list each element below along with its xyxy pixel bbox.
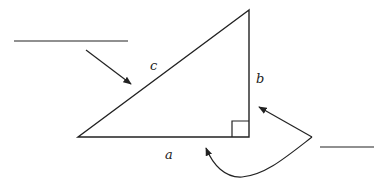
diagram-svg: c b a — [0, 0, 384, 188]
label-c-hypotenuse: c — [150, 58, 158, 73]
arrow-to-hypotenuse — [86, 50, 131, 84]
label-a-leg: a — [165, 147, 173, 162]
label-b-leg: b — [256, 71, 264, 86]
arrow-to-leg-b — [259, 107, 312, 137]
right-triangle-diagram: c b a — [0, 0, 384, 188]
curved-arrow-to-leg-a — [206, 137, 312, 177]
right-angle-marker — [232, 121, 249, 137]
right-triangle — [78, 10, 249, 137]
